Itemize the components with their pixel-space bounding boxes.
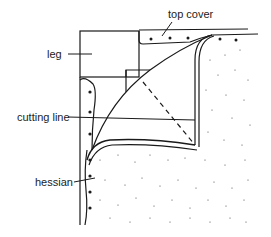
cover-right-edge-outer xyxy=(195,35,212,145)
frame-left-inner-strip xyxy=(80,79,95,150)
top-cover-leader xyxy=(162,22,172,36)
label-leg: leg xyxy=(47,48,62,60)
hessian-line xyxy=(85,150,87,225)
upholstery-corner-diagram: top cover leg cutting line hessian xyxy=(0,0,271,237)
dashed-fold xyxy=(143,82,195,145)
cover-bottom-inner xyxy=(89,145,197,165)
padding-stipple xyxy=(99,49,250,222)
cover-right-edge-inner xyxy=(199,36,214,147)
label-hessian: hessian xyxy=(35,176,73,188)
label-cutting-line: cutting line xyxy=(17,111,70,123)
cover-bottom-outer xyxy=(87,140,195,160)
top-cover-edge xyxy=(139,31,258,44)
label-top-cover: top cover xyxy=(168,8,214,20)
top-rail xyxy=(139,29,248,30)
cutting-line xyxy=(68,117,195,120)
hessian-leader xyxy=(74,178,95,182)
